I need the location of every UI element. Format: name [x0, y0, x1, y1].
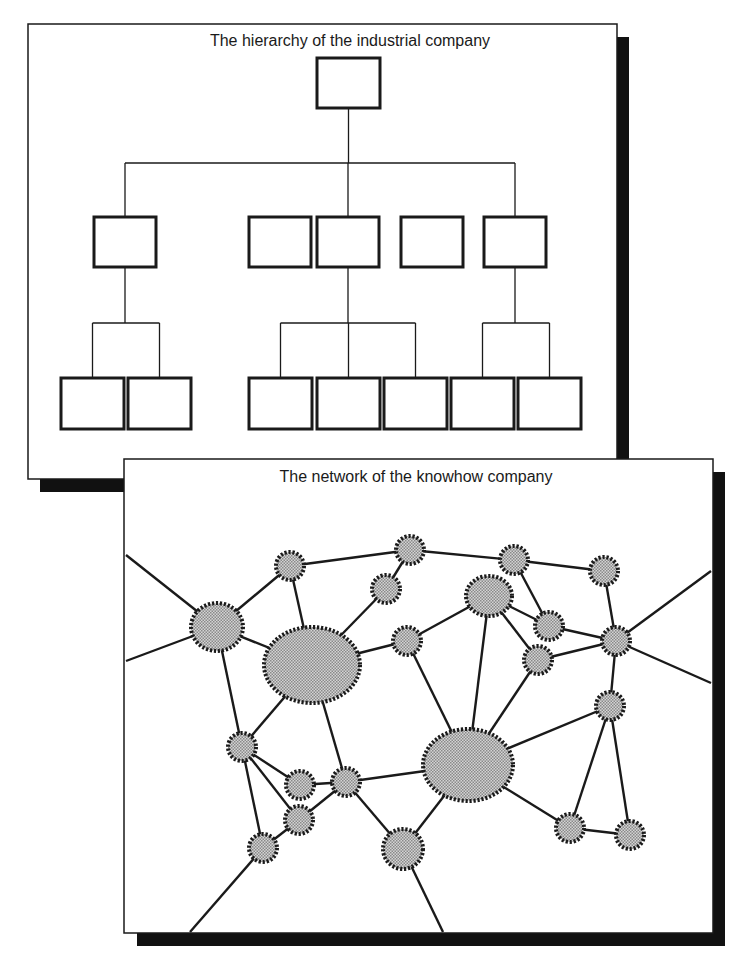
network-node: [393, 627, 421, 655]
network-node: [524, 646, 552, 674]
network-node: [466, 576, 512, 616]
org-box: [317, 58, 380, 108]
org-box: [384, 378, 447, 429]
hierarchy-panel: The hierarchy of the industrial company: [28, 24, 629, 492]
org-box: [484, 217, 546, 267]
network-node: [228, 733, 256, 761]
org-box: [61, 378, 124, 429]
org-box: [451, 378, 514, 429]
hierarchy-title: The hierarchy of the industrial company: [210, 32, 490, 49]
diagram-canvas: The hierarchy of the industrial company …: [0, 0, 745, 963]
network-node: [616, 821, 644, 849]
org-box: [518, 378, 581, 429]
network-node: [500, 546, 528, 574]
network-node: [286, 771, 314, 799]
org-box: [317, 378, 380, 429]
org-box: [249, 217, 311, 267]
network-node: [276, 552, 304, 580]
network-node: [285, 806, 313, 834]
org-box: [401, 217, 463, 267]
network-node: [602, 627, 630, 655]
org-box: [128, 378, 191, 429]
network-node: [191, 603, 243, 651]
network-node: [372, 575, 400, 603]
network-node: [556, 814, 584, 842]
network-node: [264, 627, 360, 703]
org-box: [249, 378, 312, 429]
network-node: [535, 612, 563, 640]
network-node: [332, 768, 360, 796]
network-node: [383, 829, 423, 869]
network-node: [596, 692, 624, 720]
network-panel: The network of the knowhow company: [124, 459, 725, 946]
network-node: [396, 536, 424, 564]
network-node: [590, 557, 618, 585]
org-box: [94, 217, 156, 267]
network-title: The network of the knowhow company: [279, 468, 552, 485]
org-box: [317, 217, 379, 267]
network-node: [249, 834, 277, 862]
network-node: [423, 729, 513, 801]
